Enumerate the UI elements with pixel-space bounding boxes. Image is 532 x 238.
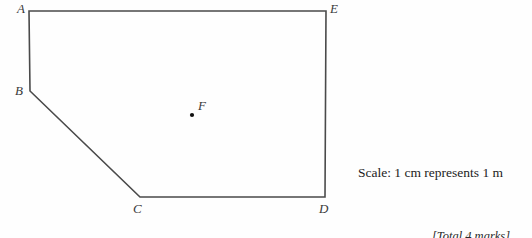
vertex-label-f: F — [198, 99, 206, 112]
point-f-marker — [190, 113, 194, 117]
scale-note: Scale: 1 cm represents 1 m — [358, 166, 503, 180]
vertex-label-e: E — [330, 2, 338, 15]
pentagon-outline — [29, 11, 326, 197]
vertex-label-d: D — [319, 202, 328, 215]
vertex-label-a: A — [17, 2, 25, 15]
vertex-label-c: C — [133, 202, 142, 215]
pentagon-diagram — [0, 0, 360, 238]
total-marks-note: [Total 4 marks] — [432, 230, 510, 238]
page-canvas: A E D C B F Scale: 1 cm represents 1 m [… — [0, 0, 532, 238]
vertex-label-b: B — [15, 84, 23, 97]
